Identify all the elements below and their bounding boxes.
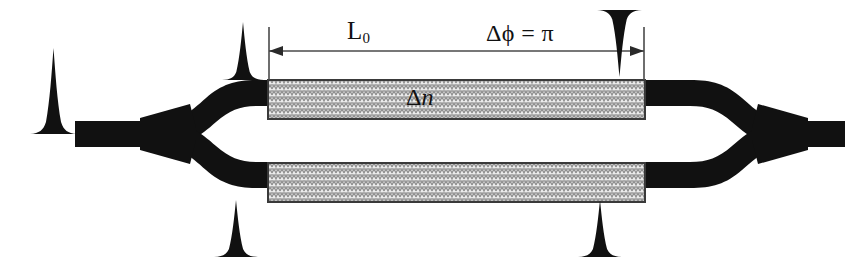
upper-electrode-region	[268, 80, 645, 119]
length-label-symbol: L	[347, 17, 362, 44]
phase-shift-label: Δϕ = π	[486, 21, 554, 45]
dimension-arrowhead-left	[269, 46, 283, 56]
index-change-n: n	[421, 84, 433, 110]
y-splitter-junction	[140, 104, 196, 164]
lower-electrode-region	[268, 163, 645, 202]
index-change-delta: Δ	[406, 84, 421, 110]
index-change-regions	[268, 80, 645, 202]
mach-zehnder-modulator-figure: L0 Δϕ = π Δn	[0, 0, 863, 266]
dimension-arrowhead-right	[630, 46, 644, 56]
length-label-subscript: 0	[362, 30, 370, 46]
upper-arm-input-pulse	[222, 22, 264, 80]
index-change-label: Δn	[406, 85, 433, 109]
diagram-canvas	[0, 0, 863, 266]
upper-arm-output-pulse	[597, 10, 642, 77]
lower-arm-input-pulse	[214, 200, 258, 257]
length-label: L0	[347, 18, 370, 46]
length-dimension-annotation	[269, 27, 644, 80]
input-pulse	[30, 48, 77, 134]
lower-arm-output-pulse	[578, 200, 622, 257]
output-waveguide	[795, 121, 845, 147]
